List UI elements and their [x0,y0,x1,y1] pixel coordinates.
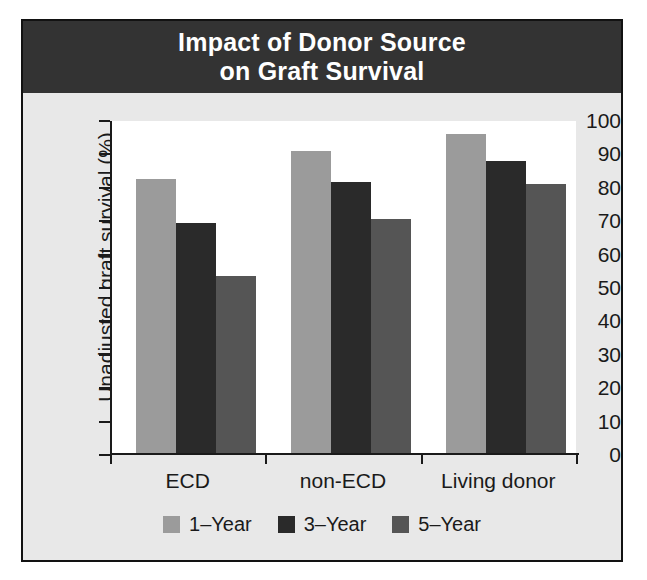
bar [526,184,566,453]
bar [486,161,526,453]
bar [446,134,486,453]
bar [371,219,411,453]
y-axis-tick [99,120,110,122]
y-axis-tick [99,220,110,222]
y-axis-tick [99,387,110,389]
y-axis-tick [99,287,110,289]
bar-group [112,121,267,453]
x-axis-category-label: Living donor [441,469,555,493]
x-axis-tick [576,453,578,464]
y-axis-tick [99,153,110,155]
y-axis-tick [99,421,110,423]
x-axis-tick [265,453,267,464]
legend-item: 3–Year [278,513,367,536]
chart-title: Impact of Donor Source on Graft Survival [178,28,466,87]
y-axis-tick [99,354,110,356]
bar [291,151,331,453]
chart-legend: 1–Year3–Year5–Year [23,513,621,536]
x-axis-category-label: ECD [165,469,209,493]
legend-label: 1–Year [189,513,252,536]
y-axis-tick [99,320,110,322]
figure-frame: Impact of Donor Source on Graft Survival… [21,19,623,562]
legend-swatch [392,516,409,533]
y-axis-tick [99,187,110,189]
legend-item: 1–Year [163,513,252,536]
legend-label: 3–Year [304,513,367,536]
chart-title-line-1: Impact of Donor Source [178,28,466,56]
x-axis-category-label: non-ECD [300,469,386,493]
chart-title-line-2: on Graft Survival [220,57,425,85]
bar [136,179,176,453]
chart-page: Impact of Donor Source on Graft Survival… [0,0,647,580]
chart-area: Unadjusted graft survival (%) 0102030405… [23,93,621,560]
x-axis-tick [421,453,423,464]
legend-swatch [278,516,295,533]
y-axis-tick [99,254,110,256]
x-axis-line [110,453,579,455]
bar [216,276,256,453]
bar [331,182,371,453]
legend-swatch [163,516,180,533]
bar-group [423,121,578,453]
x-axis-tick [110,453,112,464]
legend-item: 5–Year [392,513,481,536]
bar [176,223,216,453]
chart-title-band: Impact of Donor Source on Graft Survival [23,21,621,93]
bar-group [267,121,422,453]
y-axis-tick [99,454,110,456]
legend-label: 5–Year [418,513,481,536]
bars-layer [112,121,576,453]
